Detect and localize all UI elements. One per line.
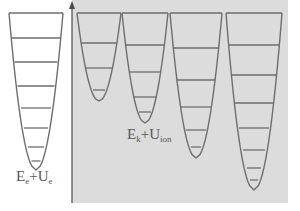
potential-well-diagram: Ee+Ue Ek+Uion (0, 0, 300, 211)
well-3-ion-curve (122, 13, 168, 123)
label-electron-energy: Ee+Ue (16, 168, 52, 186)
well-3-ion (122, 13, 168, 123)
energy-axis-group (69, 1, 75, 203)
well-4-ion (170, 13, 222, 158)
label-ion-part-2: +U (141, 126, 160, 142)
well-2-ion-curve (77, 13, 121, 101)
label-electron-part-2: +U (29, 168, 48, 184)
well-2-ion (77, 13, 121, 101)
well-1-electron (9, 13, 63, 170)
label-electron-part-3: e (48, 176, 52, 186)
well-4-ion-curve (170, 13, 222, 158)
label-electron-part-0: E (16, 168, 25, 184)
wells-group (9, 13, 282, 190)
well-5-ion (226, 13, 282, 190)
well-5-ion-curve (226, 13, 282, 190)
energy-axis-arrowhead-icon (69, 1, 75, 9)
label-ion-energy: Ek+Uion (127, 126, 171, 144)
label-ion-part-3: ion (160, 134, 172, 144)
label-ion-part-0: E (127, 126, 136, 142)
